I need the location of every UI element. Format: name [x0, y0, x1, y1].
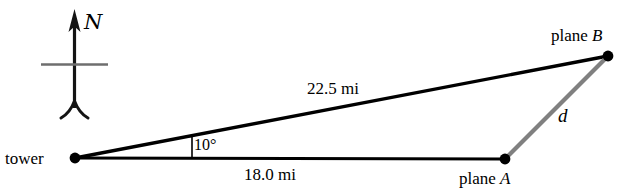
side-tower-to-plane-a [75, 158, 505, 159]
angle-arc-at-tower [182, 136, 193, 137]
vertex-dot-tower [70, 153, 81, 164]
plane-b-label-prefix: plane [551, 26, 592, 45]
plane-b-label: plane B [551, 27, 602, 44]
angle-label-10-degrees: 10° [194, 137, 216, 153]
compass-north-label: N [84, 12, 102, 33]
triangle-diagram: N tower plane A plane B 22.5 mi 18.0 mi … [0, 0, 643, 194]
plane-a-label: plane A [459, 170, 510, 187]
side-label-d: d [558, 106, 568, 125]
tower-label: tower [5, 150, 44, 167]
plane-a-label-prefix: plane [459, 169, 500, 188]
plane-a-label-letter: A [500, 169, 510, 188]
side-tower-to-plane-b [75, 56, 608, 158]
vertex-dot-plane-b [603, 51, 614, 62]
vertex-dot-plane-a [500, 154, 511, 165]
plane-b-label-letter: B [592, 26, 602, 45]
side-label-22-5-mi: 22.5 mi [307, 80, 359, 97]
side-label-18-0-mi: 18.0 mi [244, 166, 296, 183]
compass-tail-fletching [61, 101, 88, 118]
